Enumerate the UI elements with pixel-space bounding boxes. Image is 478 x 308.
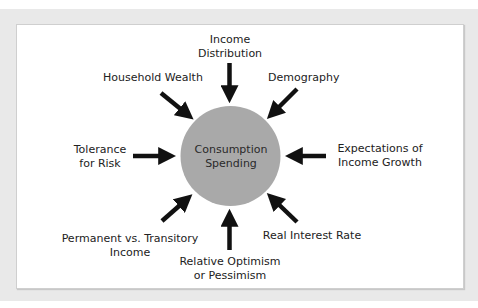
label-income-distribution: Income Distribution	[180, 33, 280, 60]
label-line: Distribution	[180, 47, 280, 61]
label-line: or Pessimism	[175, 269, 285, 283]
label-household-wealth: Household Wealth	[98, 71, 208, 85]
label-line: Income Growth	[330, 156, 430, 170]
label-expectations-income-growth: Expectations of Income Growth	[330, 142, 430, 169]
label-line: Permanent vs. Transitory	[60, 232, 200, 246]
center-label-line2: Spending	[181, 157, 281, 171]
center-label-line1: Consumption	[181, 143, 281, 157]
label-line: Expectations of	[330, 142, 430, 156]
label-line: Income	[180, 33, 280, 47]
label-line: Income	[60, 246, 200, 260]
label-line: for Risk	[70, 157, 130, 171]
center-label: Consumption Spending	[181, 143, 281, 171]
arrow-household-wealth	[161, 93, 188, 115]
label-real-interest-rate: Real Interest Rate	[262, 229, 362, 243]
arrow-permanent-vs-transitory	[162, 199, 187, 221]
arrow-real-interest-rate	[272, 198, 297, 222]
label-line: Demography	[268, 71, 338, 85]
label-relative-optimism: Relative Optimism or Pessimism	[175, 255, 285, 282]
label-demography: Demography	[268, 71, 338, 85]
label-line: Household Wealth	[98, 71, 208, 85]
label-permanent-vs-transitory: Permanent vs. Transitory Income	[60, 232, 200, 259]
label-line: Tolerance	[70, 143, 130, 157]
arrow-demography	[272, 89, 297, 114]
label-tolerance-for-risk: Tolerance for Risk	[70, 143, 130, 170]
label-line: Real Interest Rate	[262, 229, 362, 243]
